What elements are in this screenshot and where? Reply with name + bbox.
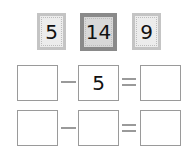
eq2-operand2-box[interactable]: [78, 110, 119, 146]
number-card-14: 14: [80, 13, 117, 51]
eq2-operand1-box[interactable]: [17, 110, 58, 146]
eq1-operand1-box[interactable]: [17, 65, 58, 101]
card-value: 9: [140, 20, 153, 44]
eq2-equals-sign-top: [122, 124, 136, 126]
eq2-equals-sign-bottom: [122, 130, 136, 132]
eq1-equals-sign-top: [122, 78, 136, 80]
eq1-minus-sign: [61, 81, 76, 83]
eq2-result-box[interactable]: [140, 110, 181, 146]
number-card-5: 5: [37, 13, 66, 50]
number-card-9: 9: [132, 13, 161, 50]
card-value: 5: [45, 20, 58, 44]
eq1-equals-sign-bottom: [122, 84, 136, 86]
card-value: 14: [86, 20, 111, 44]
eq2-minus-sign: [61, 127, 76, 129]
eq1-result-box[interactable]: [140, 65, 181, 101]
eq1-operand2-box[interactable]: 5: [78, 65, 119, 101]
